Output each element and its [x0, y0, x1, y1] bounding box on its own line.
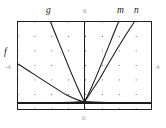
tick-label-top: 6 — [83, 8, 87, 15]
curve-f — [18, 64, 85, 102]
curve-g — [51, 22, 85, 102]
curve-g-tail — [85, 102, 152, 103]
curve-m — [85, 22, 119, 102]
curves-layer — [18, 22, 151, 109]
curve-label-f: f — [4, 48, 7, 58]
exponential-functions-figure: f g m n 6 -4 4 0 — [0, 0, 166, 128]
curve-label-m: m — [117, 6, 124, 16]
curve-label-g: g — [46, 6, 51, 16]
tick-label-bottom: 0 — [82, 115, 86, 122]
tick-label-right: 4 — [156, 64, 160, 71]
tick-label-left: -4 — [5, 64, 11, 71]
curve-n — [85, 22, 135, 102]
curve-label-n: n — [134, 6, 139, 16]
plot-frame — [17, 21, 152, 110]
